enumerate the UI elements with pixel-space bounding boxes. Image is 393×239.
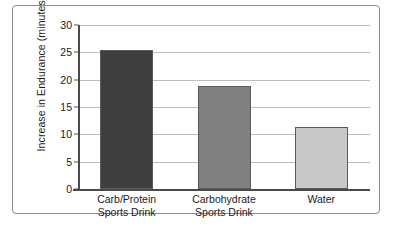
x-axis-category-labels: Carb/ProteinSports DrinkCarbohydrateSpor… — [78, 193, 370, 233]
category-label-line: Carb/Protein — [78, 193, 175, 206]
bar — [295, 127, 348, 189]
category-label: Carb/ProteinSports Drink — [78, 193, 175, 218]
y-axis-tick-label: 15 — [60, 101, 72, 113]
category-label: Water — [273, 193, 370, 206]
y-axis-title: Increase in Endurance (minutes) — [35, 0, 47, 154]
category-label-line: Water — [273, 193, 370, 206]
y-axis-tick-label: 10 — [60, 128, 72, 140]
chart-frame: Increase in Endurance (minutes) 05101520… — [12, 5, 380, 214]
x-axis-line — [73, 189, 370, 191]
category-label: CarbohydrateSports Drink — [175, 193, 272, 218]
bar — [198, 86, 251, 189]
bar — [100, 50, 153, 189]
category-label-line: Sports Drink — [175, 206, 272, 219]
plot-area: 051015202530 Carb/ProteinSports DrinkCar… — [78, 25, 370, 195]
y-axis-tick-label: 30 — [60, 19, 72, 31]
y-axis-tick-label: 0 — [66, 183, 72, 195]
category-label-line: Sports Drink — [78, 206, 175, 219]
bars-group — [78, 25, 370, 189]
category-label-line: Carbohydrate — [175, 193, 272, 206]
y-axis-tick-label: 5 — [66, 156, 72, 168]
y-axis-tick-label: 25 — [60, 46, 72, 58]
y-axis-tick-label: 20 — [60, 74, 72, 86]
